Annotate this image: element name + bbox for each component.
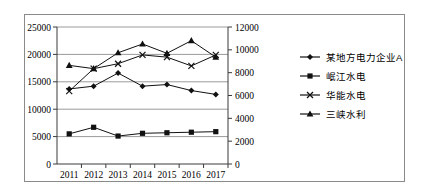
marker-square [213,129,218,134]
right-axis-tick-label: 0 [235,160,240,170]
marker-diamond [164,82,170,88]
right-axis-tick-label: 6000 [235,91,254,101]
legend-item-4: 三峡水利 [300,109,366,120]
legend-item-3: 华能水电 [300,90,366,101]
marker-triangle [66,62,73,68]
x-axis-tick-label: 2017 [206,170,225,180]
chart-container: 0500010000150002000025000020004000600080… [0,0,431,196]
marker-diamond [91,83,97,89]
right-axis-tick-label: 2000 [235,137,254,147]
marker-square [189,130,194,135]
left-axis-tick-label: 10000 [27,105,51,115]
left-axis-tick-label: 5000 [32,132,51,142]
marker-triangle [139,40,146,46]
legend-item-1: 某地方电力企业A [300,52,403,63]
left-axis-tick-label: 25000 [27,23,51,33]
right-axis-tick-label: 8000 [235,68,254,78]
right-axis-tick-label: 12000 [235,23,259,33]
left-axis-tick-label: 0 [46,160,51,170]
legend-item-2: 岷江水电 [300,71,366,82]
x-axis-tick-label: 2016 [182,170,201,180]
marker-square [307,73,312,78]
marker-square [115,133,120,138]
x-axis-tick-label: 2012 [84,170,103,180]
marker-square [140,131,145,136]
marker-square [164,130,169,135]
marker-diamond [307,54,313,60]
line-chart: 0500010000150002000025000020004000600080… [0,0,431,196]
x-axis-tick-label: 2011 [60,170,79,180]
marker-triangle [188,37,195,43]
x-axis-tick-label: 2014 [133,170,152,180]
marker-diamond [188,88,194,94]
left-axis-tick-label: 15000 [27,77,51,87]
right-axis-tick-label: 10000 [235,45,259,55]
series-1 [66,70,219,97]
marker-square [91,125,96,130]
x-axis-tick-label: 2015 [157,170,176,180]
legend-label: 三峡水利 [326,109,366,120]
marker-square [67,131,72,136]
marker-diamond [213,91,219,97]
marker-diamond [140,83,146,89]
legend-label: 岷江水电 [326,71,366,82]
left-axis-tick-label: 20000 [27,50,51,60]
legend-label: 华能水电 [326,90,366,101]
right-axis-tick-label: 4000 [235,114,254,124]
legend-label: 某地方电力企业A [326,52,403,63]
marker-diamond [115,70,121,76]
x-axis-tick-label: 2013 [109,170,128,180]
